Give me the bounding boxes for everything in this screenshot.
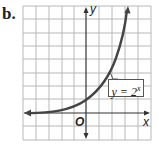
x-axis-label: x [143, 115, 149, 129]
origin-label: O [75, 115, 84, 129]
y-arrow-up-icon [84, 7, 89, 13]
y-axis-label: y [90, 2, 96, 16]
grid [23, 6, 151, 140]
y-arrow-down-icon [84, 133, 89, 139]
equation-label: y = 2x [108, 79, 144, 97]
curve-arrow-left-icon [24, 110, 31, 117]
